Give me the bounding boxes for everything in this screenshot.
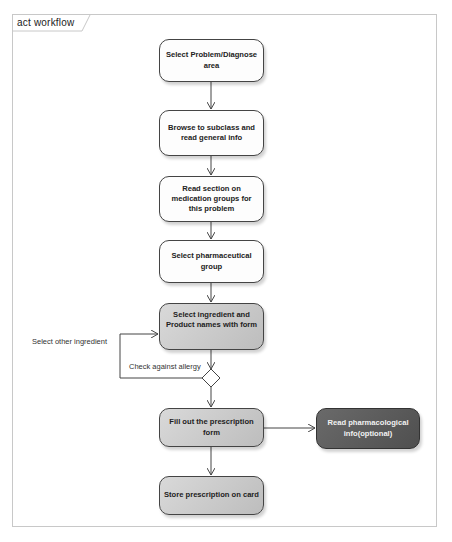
decision-diamond: [202, 369, 220, 387]
node-select-problem: Select Problem/Diagnose area: [159, 39, 264, 82]
node-read-medication-groups: Read section on medication groups for th…: [159, 176, 264, 222]
node-fill-prescription: Fill out the prescription form: [159, 408, 264, 447]
node-label: Browse to subclass and read general info: [164, 123, 259, 144]
node-read-pharmacological-info: Read pharmacological info(optional): [316, 408, 420, 449]
node-select-ingredient: Select ingredient and Product names with…: [159, 303, 264, 350]
node-label: Read section on medication groups for th…: [164, 184, 259, 215]
node-label: Store prescription on card: [164, 490, 259, 500]
edge-label-select-other: Select other ingredient: [32, 337, 107, 346]
node-label: Select ingredient and Product names with…: [164, 310, 259, 331]
node-label: Fill out the prescription form: [164, 417, 259, 438]
node-label: Select Problem/Diagnose area: [164, 50, 259, 71]
node-browse-subclass: Browse to subclass and read general info: [159, 110, 264, 156]
node-label: Read pharmacological info(optional): [321, 418, 415, 439]
node-select-pharmaceutical-group: Select pharmaceutical group: [159, 240, 264, 283]
node-store-prescription: Store prescription on card: [159, 476, 264, 515]
edge-label-check-allergy: Check against allergy: [129, 362, 201, 371]
node-label: Select pharmaceutical group: [164, 251, 259, 272]
